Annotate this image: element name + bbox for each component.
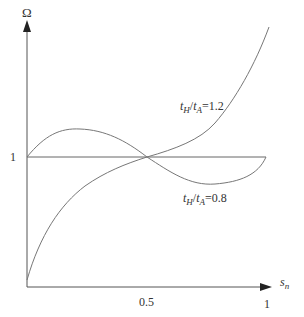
annotation-0-8: tH/tA=0.8 — [183, 192, 227, 207]
ann1-value: =1.2 — [202, 99, 224, 113]
curve-0-8 — [27, 27, 269, 280]
y-tick-one: 1 — [10, 151, 16, 163]
ann2-value: =0.8 — [205, 191, 227, 205]
chart-canvas — [0, 0, 304, 317]
x-tick-one: 1 — [264, 298, 270, 310]
x-axis-arrow-icon — [260, 283, 272, 291]
x-axis-label-sub: n — [285, 281, 290, 291]
x-tick-half: 0.5 — [139, 296, 154, 308]
annotation-1-2: tH/tA=1.2 — [180, 100, 224, 115]
x-axis-label: sn — [280, 276, 289, 291]
y-axis-label: Ω — [22, 6, 32, 19]
y-axis-arrow-icon — [23, 20, 31, 32]
